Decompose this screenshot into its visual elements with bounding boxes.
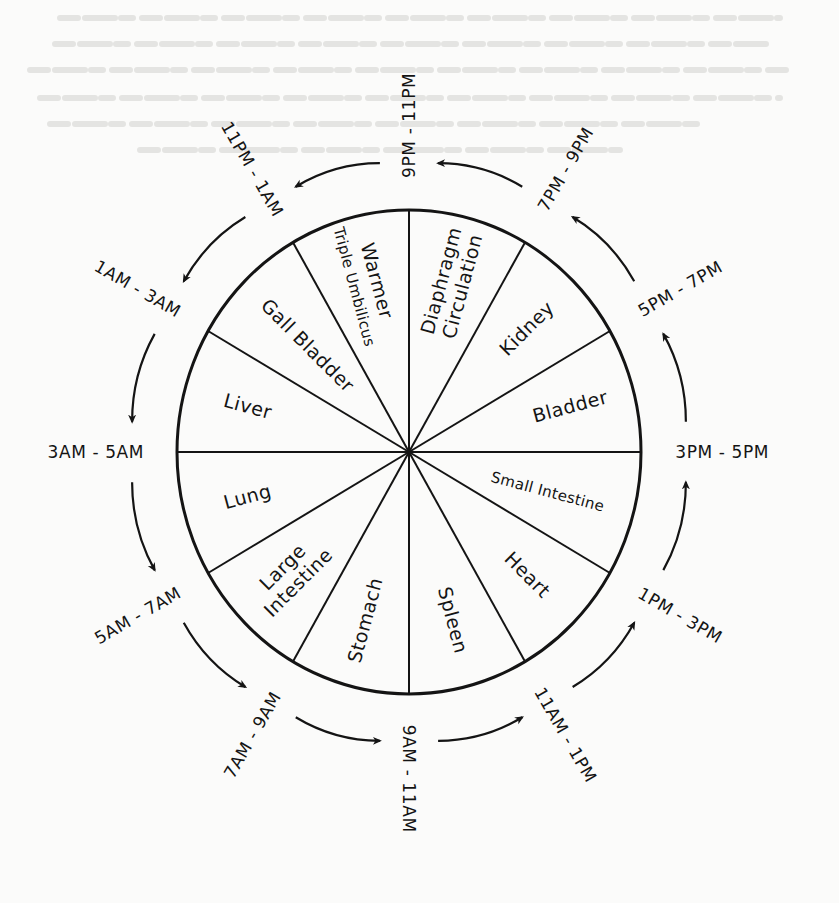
time-label: 5AM - 7AM: [91, 583, 185, 649]
flow-arrow-icon: [663, 334, 686, 422]
flow-arrow-icon: [438, 717, 522, 741]
time-label: 5PM - 7PM: [635, 257, 726, 321]
organ-segment-stomach: Stomach: [343, 575, 387, 665]
flow-arrow-icon: [132, 482, 155, 570]
time-label: 3PM - 5PM: [675, 442, 769, 462]
organ-label: Heart: [500, 547, 555, 602]
time-label: 1AM - 3AM: [91, 256, 185, 322]
organ-label: Small Intestine: [489, 468, 606, 516]
time-label: 1PM - 3PM: [635, 583, 726, 647]
time-label: 11AM - 1PM: [530, 684, 601, 786]
flow-arrow-icon: [438, 163, 522, 187]
flow-arrow-icon: [296, 163, 380, 187]
organ-segment-liver: Liver: [221, 389, 274, 423]
organ-clock-wheel: BladderKidneyDiaphragmCirculationWarmerT…: [0, 0, 839, 903]
flow-arrow-icon: [573, 623, 635, 687]
organ-label: Kidney: [495, 296, 558, 359]
organ-label: Spleen: [434, 584, 473, 655]
organ-segment-gall-bladder: Gall Bladder: [257, 294, 359, 396]
flow-arrow-icon: [184, 217, 246, 281]
time-label: 3AM - 5AM: [48, 442, 145, 462]
sector-dividers: [177, 210, 641, 694]
organ-label: Liver: [221, 389, 274, 423]
flow-arrow-icon: [663, 482, 686, 570]
organ-label: Gall Bladder: [257, 294, 359, 396]
organ-label: Stomach: [343, 575, 387, 665]
flow-arrow-icon: [296, 717, 380, 741]
organ-label: Lung: [221, 479, 273, 513]
organ-label: Bladder: [530, 385, 610, 426]
flow-arrow-icon: [184, 623, 246, 687]
time-label: 11PM - 1AM: [217, 118, 288, 220]
organ-clock-diagram: BladderKidneyDiaphragmCirculationWarmerT…: [0, 0, 839, 903]
time-label: 7AM - 9AM: [220, 688, 286, 782]
flow-arrow-icon: [573, 217, 635, 281]
time-label: 9PM - 11PM: [399, 73, 419, 178]
organ-segment-diaphragm-circulation: DiaphragmCirculation: [416, 225, 487, 343]
time-label: 7PM - 9PM: [533, 123, 597, 214]
time-label: 9AM - 11AM: [399, 725, 419, 833]
organ-segment-spleen: Spleen: [434, 584, 473, 655]
organ-segment-small-intestine: Small Intestine: [489, 468, 606, 516]
organ-segment-lung: Lung: [221, 479, 273, 513]
organ-segment-bladder: Bladder: [530, 385, 610, 426]
organ-segment-heart: Heart: [500, 547, 555, 602]
organ-segment-kidney: Kidney: [495, 296, 558, 359]
flow-arrow-icon: [132, 334, 155, 422]
